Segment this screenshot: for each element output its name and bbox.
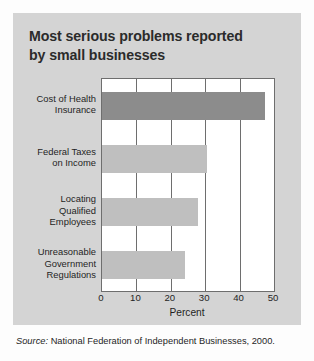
source-text: National Federation of Independent Busin… xyxy=(51,336,275,346)
x-tick-label: 10 xyxy=(130,292,141,303)
bar xyxy=(102,251,185,279)
chart-title-line-1: Most serious problems reported xyxy=(29,27,287,46)
category-axis-labels: Cost of HealthInsuranceFederal Taxeson I… xyxy=(13,78,101,290)
bar xyxy=(102,198,198,226)
category-label-line: Federal Taxes xyxy=(9,146,96,158)
x-tick-label: 30 xyxy=(199,292,210,303)
category-label-line: Qualified xyxy=(9,205,96,217)
chart-title-line-2: by small businesses xyxy=(29,46,287,65)
source-note: Source: National Federation of Independe… xyxy=(16,336,275,346)
bar xyxy=(102,92,265,120)
category-label-line: Locating xyxy=(9,193,96,205)
category-label: LocatingQualifiedEmployees xyxy=(9,193,101,229)
category-label-line: Employees xyxy=(9,216,96,228)
category-label: Federal Taxeson Income xyxy=(9,146,101,170)
category-label: UnreasonableGovernmentRegulations xyxy=(9,246,101,282)
x-tick-label: 0 xyxy=(98,292,103,303)
x-tick-label: 20 xyxy=(164,292,175,303)
category-label: Cost of HealthInsurance xyxy=(9,93,101,117)
category-label-line: Unreasonable xyxy=(9,246,96,258)
x-tick-label: 40 xyxy=(233,292,244,303)
chart-panel: Most serious problems reported by small … xyxy=(13,13,301,325)
figure-bar-chart: Most serious problems reported by small … xyxy=(0,0,314,361)
source-prefix: Source: xyxy=(16,336,48,346)
chart-title: Most serious problems reported by small … xyxy=(29,27,287,65)
category-label-line: Cost of Health xyxy=(9,93,96,105)
category-label-line: on Income xyxy=(9,157,96,169)
category-label-line: Regulations xyxy=(9,269,96,281)
x-axis-title: Percent xyxy=(101,307,273,318)
x-axis-tick-labels: 01020304050 xyxy=(101,292,273,306)
x-tick-label: 50 xyxy=(268,292,279,303)
plot-area xyxy=(101,78,275,292)
bar xyxy=(102,145,207,173)
category-label-line: Insurance xyxy=(9,104,96,116)
category-label-line: Government xyxy=(9,258,96,270)
